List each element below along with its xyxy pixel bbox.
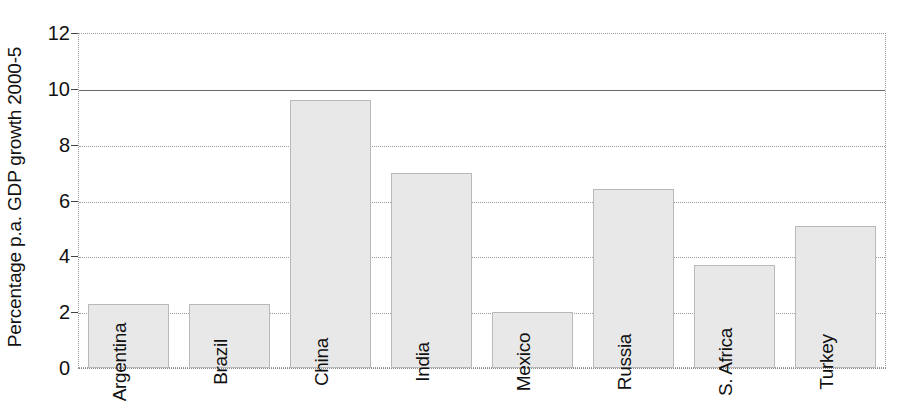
y-tick-mark bbox=[71, 312, 78, 313]
y-tick-mark bbox=[71, 201, 78, 202]
bar-label: Brazil bbox=[211, 339, 230, 385]
bar-label: Mexico bbox=[514, 333, 533, 391]
y-axis-tick-labels: 024681012 bbox=[26, 0, 70, 394]
y-tick-mark bbox=[71, 256, 78, 257]
bar[interactable] bbox=[391, 173, 472, 368]
bar-label: India bbox=[413, 342, 432, 382]
y-tick-mark bbox=[71, 145, 78, 146]
bar[interactable] bbox=[290, 100, 371, 368]
y-tick-label: 10 bbox=[26, 79, 70, 99]
y-tick-label: 0 bbox=[26, 358, 70, 378]
y-tick-label: 12 bbox=[26, 23, 70, 43]
y-tick-mark bbox=[71, 89, 78, 90]
bar-label: China bbox=[312, 338, 331, 386]
x-axis-line bbox=[78, 368, 886, 369]
bars-layer: ArgentinaBrazilChinaIndiaMexicoRussiaS. … bbox=[78, 33, 886, 368]
y-tick-mark bbox=[71, 33, 78, 34]
bar-label: Argentina bbox=[110, 323, 129, 401]
bar-label: Russia bbox=[615, 334, 634, 390]
y-tick-label: 4 bbox=[26, 246, 70, 266]
y-tick-label: 6 bbox=[26, 191, 70, 211]
bar-label: S. Africa bbox=[716, 328, 735, 396]
bar-label: Turkey bbox=[817, 334, 836, 390]
y-tick-label: 2 bbox=[26, 302, 70, 322]
y-tick-label: 8 bbox=[26, 135, 70, 155]
